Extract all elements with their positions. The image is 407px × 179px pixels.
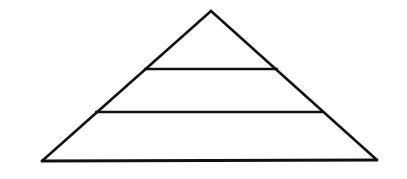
pyramid-diagram (0, 0, 407, 179)
diagram-background (0, 0, 407, 179)
pyramid-diagram-canvas (0, 0, 407, 179)
pyramid-base-edge (42, 160, 377, 161)
